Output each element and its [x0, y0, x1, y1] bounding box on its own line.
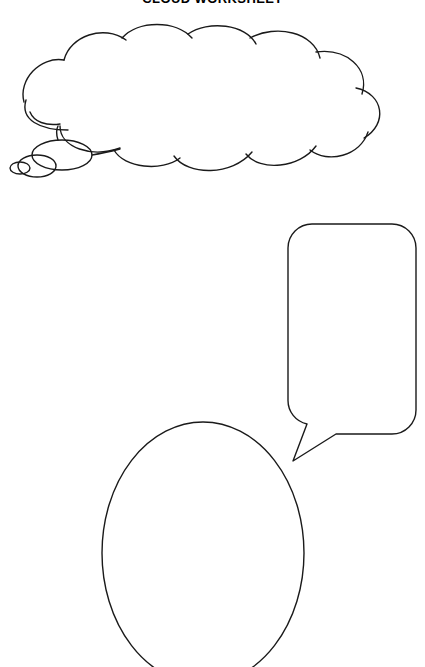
speech-bubble-shape[interactable] [288, 224, 416, 461]
worksheet-artwork [0, 0, 425, 667]
thought-cloud-shape[interactable] [23, 25, 380, 171]
worksheet-page: CLOUD WORKSHEET [0, 0, 425, 667]
face-oval-shape[interactable] [102, 422, 304, 667]
